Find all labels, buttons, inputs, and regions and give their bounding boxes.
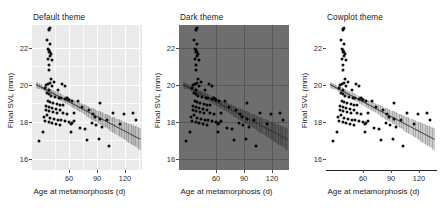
data-point (50, 94, 53, 97)
data-point (365, 100, 368, 103)
data-point (425, 112, 428, 115)
data-point (60, 119, 63, 122)
data-point (81, 106, 84, 109)
gridline-x-120-dark (272, 25, 273, 170)
data-point (332, 139, 335, 142)
data-point (202, 102, 205, 105)
x-tick-label-120-cowplot: 120 (407, 174, 431, 183)
data-point (42, 115, 45, 118)
data-point (413, 123, 416, 126)
data-point (336, 115, 339, 118)
data-point (358, 120, 361, 123)
data-point (237, 122, 240, 125)
data-point (55, 111, 58, 114)
data-point (343, 26, 346, 29)
data-point (233, 138, 236, 141)
data-point (416, 113, 419, 116)
data-point (343, 116, 346, 119)
data-point (46, 57, 49, 60)
data-point (51, 85, 54, 88)
x-axis-title-cowplot: Age at metamorphosis (d) (306, 187, 441, 196)
data-point (242, 123, 245, 126)
data-point (197, 94, 200, 97)
x-tick-label-90-cowplot: 90 (379, 174, 403, 183)
data-point (231, 128, 234, 131)
data-point (352, 123, 355, 126)
y-tick-label-20-dark: 20 (157, 81, 175, 90)
x-tick-120-dark (272, 170, 273, 173)
data-point (205, 108, 208, 111)
data-point (375, 106, 378, 109)
data-point (194, 69, 197, 72)
y-tick-label-18-dark: 18 (157, 118, 175, 127)
data-point (203, 88, 206, 91)
y-tick-label-18-default: 18 (10, 118, 28, 127)
x-tick-120-default (125, 170, 126, 173)
data-point (345, 85, 348, 88)
data-point (354, 119, 357, 122)
gridline-x-90-default (97, 25, 98, 170)
data-point (266, 123, 269, 126)
data-point (189, 130, 192, 133)
data-point (52, 110, 55, 113)
data-point (258, 111, 261, 114)
data-point (56, 118, 59, 121)
data-point (53, 117, 56, 120)
gridline-x-90-dark (244, 25, 245, 170)
data-point (207, 97, 210, 100)
x-tick-label-60-default: 60 (57, 174, 81, 183)
data-point (358, 85, 361, 88)
data-point (53, 81, 56, 84)
data-point (255, 145, 258, 148)
data-point (356, 104, 359, 107)
data-point (197, 77, 200, 80)
panel-dark-theme: Dark theme Final SVL (mm) 22 20 18 16 60… (147, 0, 294, 208)
x-tick-120-cowplot (419, 170, 420, 173)
data-point (370, 100, 373, 103)
data-point (49, 54, 52, 57)
data-point (64, 120, 67, 123)
data-point (342, 29, 345, 32)
data-point (216, 130, 219, 133)
data-point (111, 111, 114, 114)
x-tick-60-default (69, 170, 70, 173)
data-point (381, 108, 384, 111)
data-point (196, 26, 199, 29)
data-point (52, 101, 55, 104)
data-point (49, 26, 52, 29)
data-point (198, 122, 201, 125)
data-point (269, 113, 272, 116)
data-point (278, 112, 281, 115)
x-tick-label-60-dark: 60 (204, 174, 228, 183)
data-point (200, 117, 203, 120)
data-point (342, 63, 345, 66)
data-point (338, 108, 341, 111)
data-point (244, 138, 247, 141)
data-point (199, 110, 202, 113)
x-axis-title-default: Age at metamorphosis (d) (12, 187, 147, 196)
data-point (247, 125, 250, 128)
data-point (90, 122, 93, 125)
data-point (343, 54, 346, 57)
data-point (48, 88, 51, 91)
data-point (53, 95, 56, 98)
data-point (43, 120, 46, 123)
plot-area-cowplot (326, 25, 436, 170)
data-point (108, 145, 111, 148)
data-point (69, 130, 72, 133)
data-point (344, 77, 347, 80)
data-point (367, 120, 370, 123)
panel-cowplot-theme: Cowplot theme Final SVL (mm) 22 20 18 16… (294, 0, 441, 208)
data-point (345, 122, 348, 125)
data-point (281, 119, 284, 122)
data-point (189, 115, 192, 118)
y-tick-label-22-cowplot: 22 (304, 44, 322, 53)
data-point (245, 101, 248, 104)
plot-area-dark (179, 25, 289, 170)
data-point (213, 98, 216, 101)
data-point (86, 138, 89, 141)
data-point (367, 112, 370, 115)
data-point (196, 116, 199, 119)
data-point (71, 100, 74, 103)
data-point (49, 42, 52, 45)
